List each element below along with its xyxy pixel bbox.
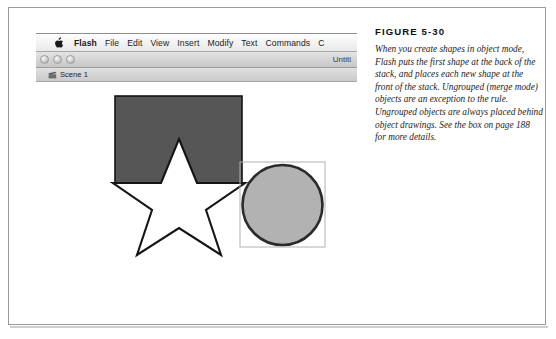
figure-caption: FIGURE 5-30 When you create shapes in ob… [375, 26, 543, 144]
mac-menu-bar: Flash File Edit View Insert Modify Text … [36, 33, 357, 52]
menu-item-text[interactable]: Text [237, 38, 261, 48]
figure-frame-shadow [10, 326, 548, 328]
figure-number: FIGURE 5-30 [375, 26, 543, 37]
apple-icon[interactable] [50, 37, 68, 48]
stage[interactable] [36, 82, 357, 310]
circle-shape[interactable] [243, 165, 323, 245]
menu-item-flash[interactable]: Flash [70, 38, 101, 48]
figure-caption-text: When you create shapes in object mode, F… [375, 43, 543, 144]
menu-item-view[interactable]: View [146, 38, 173, 48]
document-window: Untitl Scene 1 [36, 52, 357, 310]
close-button[interactable] [40, 55, 49, 64]
minimize-button[interactable] [53, 55, 62, 64]
figure-frame: Flash File Edit View Insert Modify Text … [8, 7, 546, 325]
menu-item-commands[interactable]: Commands [261, 38, 314, 48]
stage-canvas [36, 82, 357, 310]
flash-app-screenshot: Flash File Edit View Insert Modify Text … [36, 20, 357, 310]
window-title-bar[interactable]: Untitl [36, 52, 357, 68]
figure-page: Flash File Edit View Insert Modify Text … [0, 0, 556, 339]
zoom-button[interactable] [66, 55, 75, 64]
menu-item-file[interactable]: File [101, 38, 123, 48]
traffic-lights [40, 55, 75, 64]
window-title: Untitl [333, 55, 351, 64]
scene-label[interactable]: Scene 1 [60, 70, 88, 79]
menu-item-insert[interactable]: Insert [173, 38, 203, 48]
scene-bar: Scene 1 [36, 68, 357, 82]
menu-item-edit[interactable]: Edit [123, 38, 146, 48]
menu-item-modify[interactable]: Modify [203, 38, 237, 48]
menu-item-control[interactable]: C [314, 38, 328, 48]
scene-clapperboard-icon [48, 71, 57, 79]
